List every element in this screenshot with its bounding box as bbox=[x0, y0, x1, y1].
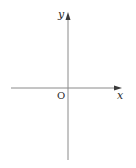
y-axis-arrow-icon bbox=[66, 12, 71, 20]
origin-label: O bbox=[57, 91, 65, 101]
x-axis-label: x bbox=[117, 90, 123, 101]
y-axis-label: y bbox=[58, 9, 64, 20]
coordinate-plane bbox=[0, 0, 136, 168]
